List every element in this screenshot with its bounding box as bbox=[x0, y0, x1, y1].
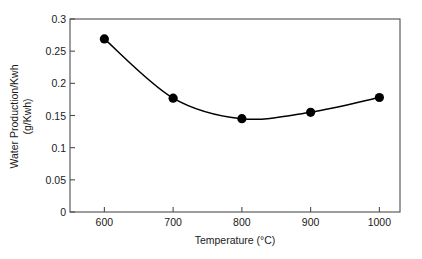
x-tick-label: 900 bbox=[284, 216, 338, 229]
data-point bbox=[375, 93, 384, 102]
data-point bbox=[169, 94, 178, 103]
plot-background bbox=[70, 19, 400, 212]
x-tick-label: 700 bbox=[146, 216, 200, 229]
data-point bbox=[237, 114, 246, 123]
x-axis-tick-labels: 6007008009001000 bbox=[0, 216, 422, 232]
data-point bbox=[100, 34, 109, 43]
x-tick-label: 1000 bbox=[352, 216, 406, 229]
data-point bbox=[306, 108, 315, 117]
x-tick-label: 600 bbox=[77, 216, 131, 229]
chart-figure: Water Production/Kwh (g/Kwh) 00.050.10.1… bbox=[0, 0, 422, 259]
x-tick-label: 800 bbox=[215, 216, 269, 229]
x-axis-title: Temperature (°C) bbox=[70, 234, 400, 247]
